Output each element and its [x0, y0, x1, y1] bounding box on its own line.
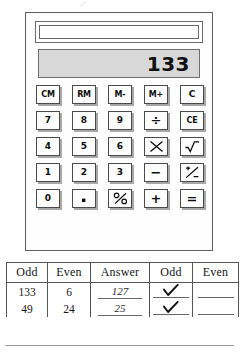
key-2[interactable]: 2 — [72, 163, 96, 182]
key-m-plus[interactable]: M+ — [144, 85, 168, 104]
table-row: 492425 — [7, 300, 239, 317]
header-odd-given: Odd — [7, 263, 48, 283]
solar-panel — [35, 21, 203, 43]
key-3[interactable]: 3 — [108, 163, 132, 182]
table-row: 1336127 — [7, 283, 239, 301]
key-row: 123− — [36, 163, 204, 182]
solar-panel-inner — [39, 25, 199, 39]
key-decimal-point[interactable] — [72, 189, 96, 208]
key-percent[interactable] — [108, 189, 132, 208]
key-label: − — [151, 166, 162, 179]
cell-even-check[interactable] — [193, 300, 239, 317]
key-square-root[interactable] — [180, 137, 204, 156]
key-5[interactable]: 5 — [72, 137, 96, 156]
header-even-given: Even — [48, 263, 91, 283]
key-8[interactable]: 8 — [72, 111, 96, 130]
calculator-display: 133 — [38, 49, 200, 78]
key-minus[interactable]: − — [144, 163, 168, 182]
key-label: RM — [77, 91, 91, 99]
key-4[interactable]: 4 — [36, 137, 60, 156]
key-label: = — [187, 192, 198, 205]
calculator-body: 133 CMRMM-M+C789÷CE456123−0+= — [25, 12, 213, 251]
key-divide[interactable]: ÷ — [144, 111, 168, 130]
cell-even-given: 24 — [48, 300, 91, 317]
answer-written: 25 — [98, 302, 142, 316]
key-label: 2 — [81, 168, 87, 177]
key-row: 789÷CE — [36, 111, 204, 130]
key-9[interactable]: 9 — [108, 111, 132, 130]
key-plus-minus[interactable] — [180, 163, 204, 182]
key-label: M+ — [149, 91, 163, 99]
stray-pencil-mark: ⁄ — [81, 0, 93, 11]
key-row: 456 — [36, 137, 204, 156]
cell-odd-check[interactable] — [150, 300, 193, 317]
key-label: 0 — [45, 194, 51, 203]
worksheet-body: 1336127492425 — [7, 283, 239, 318]
key-label: ÷ — [151, 114, 162, 127]
worksheet-table: Odd Even Answer Odd Even 1336127492425 — [6, 262, 239, 317]
display-value: 133 — [147, 54, 199, 74]
bottom-divider — [5, 345, 234, 346]
key-label: 5 — [81, 142, 87, 151]
cell-answer[interactable]: 25 — [91, 300, 150, 317]
key-label: 7 — [45, 116, 51, 125]
key-1[interactable]: 1 — [36, 163, 60, 182]
cell-odd-check[interactable] — [150, 283, 193, 301]
key-cm[interactable]: CM — [36, 85, 60, 104]
key-label: M- — [115, 91, 126, 99]
key-ce[interactable]: CE — [180, 111, 204, 130]
key-rm[interactable]: RM — [72, 85, 96, 104]
key-label: 6 — [117, 142, 123, 151]
key-c[interactable]: C — [180, 85, 204, 104]
key-label: C — [189, 90, 196, 99]
header-odd-result: Odd — [150, 263, 193, 283]
calculator-keypad: CMRMM-M+C789÷CE456123−0+= — [36, 85, 204, 208]
cell-even-check[interactable] — [193, 283, 239, 301]
key-row: CMRMM-M+C — [36, 85, 204, 104]
cell-even-given: 6 — [48, 283, 91, 301]
answer-written: 127 — [98, 285, 142, 299]
key-label: 3 — [117, 168, 123, 177]
table-header-row: Odd Even Answer Odd Even — [7, 263, 239, 283]
key-plus[interactable]: + — [144, 189, 168, 208]
header-answer: Answer — [91, 263, 150, 283]
key-multiply[interactable] — [144, 137, 168, 156]
cell-odd-given: 49 — [7, 300, 48, 317]
key-label: 4 — [45, 142, 51, 151]
odd-checkmark — [153, 284, 189, 298]
cell-answer[interactable]: 127 — [91, 283, 150, 301]
even-checkmark — [198, 301, 234, 315]
key-label: CE — [187, 117, 198, 125]
key-m-minus[interactable]: M- — [108, 85, 132, 104]
key-label: + — [151, 192, 162, 205]
key-6[interactable]: 6 — [108, 137, 132, 156]
key-label: 8 — [81, 116, 87, 125]
key-label: 9 — [117, 116, 123, 125]
cell-odd-given: 133 — [7, 283, 48, 301]
key-label: CM — [41, 91, 54, 99]
header-even-result: Even — [193, 263, 239, 283]
key-row: 0+= — [36, 189, 204, 208]
odd-checkmark — [153, 301, 189, 315]
key-7[interactable]: 7 — [36, 111, 60, 130]
key-0[interactable]: 0 — [36, 189, 60, 208]
key-equals[interactable]: = — [180, 189, 204, 208]
key-label: 1 — [45, 168, 51, 177]
even-checkmark — [198, 284, 234, 298]
